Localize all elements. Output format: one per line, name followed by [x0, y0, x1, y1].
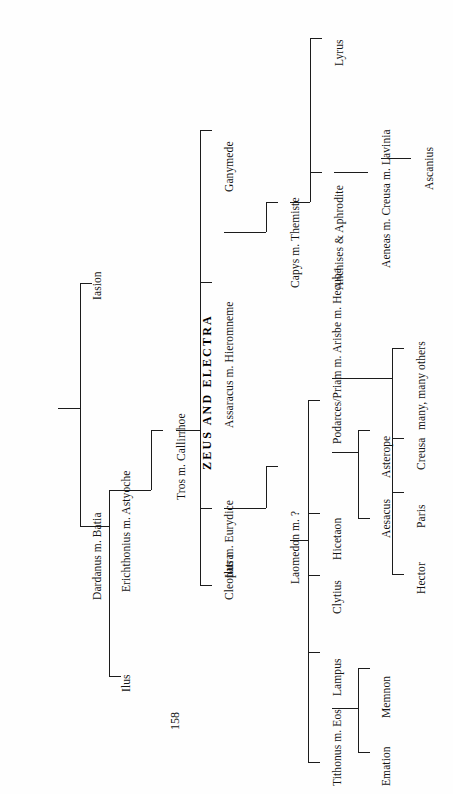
connector-tros-assaracus [200, 282, 212, 283]
connector-priam-arisbe-spine [358, 430, 359, 518]
connector-capys-anchises [310, 172, 322, 173]
node-paris[interactable]: Paris [416, 505, 428, 529]
connector-priam-manyothers [392, 348, 404, 349]
node-podarces-priam[interactable]: Podarces/Priam m. Arisbe m. Hecuba [332, 268, 344, 444]
node-erichthonius[interactable]: Erichthonius m. Astyoche [121, 470, 133, 592]
connector-laomedon-hicetaon [308, 513, 320, 514]
connector-laomedon-spine [308, 400, 309, 762]
connector-tithonus-emation [358, 752, 370, 753]
node-cleopatra[interactable]: Cleopatra [224, 554, 236, 600]
node-tros[interactable]: Tros m. Callirrhoe [176, 413, 188, 500]
node-dardanus[interactable]: Dardanus m. Batia [92, 512, 104, 600]
connector-erichthonius-spine-h [151, 430, 163, 431]
connector-laomedon-lampus [308, 652, 320, 653]
connector-tros-ganymede [200, 130, 212, 131]
node-emation[interactable]: Emation [381, 746, 393, 786]
connector-ilus2-spine [266, 466, 267, 508]
connector-priam-arisbe-stub [332, 452, 358, 453]
connector-dardanus-spine [109, 490, 110, 676]
connector-assaracus-capys [224, 232, 266, 233]
connector-laomedon-tithonus [308, 762, 320, 763]
connector-capys-spine [310, 38, 311, 202]
page-number: 158 [168, 712, 183, 730]
chart-page: ZEUS AND ELECTRA 158 [0, 0, 453, 794]
node-many-others[interactable]: many, many others [416, 341, 428, 430]
connector-capys-lyrus [310, 38, 322, 39]
connector-priam-paris [392, 492, 404, 493]
connector-root-spine [80, 283, 81, 526]
connector-anchises-aeneas [334, 172, 368, 173]
node-capys[interactable]: Capys m. Themiste [290, 197, 302, 288]
node-tithonus[interactable]: Tithonus m. Eos [332, 709, 344, 786]
connector-tros-cleopatra [200, 585, 212, 586]
connector-priam-aesacus [358, 518, 370, 519]
node-creusa[interactable]: Creusa [416, 437, 428, 470]
node-asterope[interactable]: Asterope [381, 436, 393, 478]
node-ganymede[interactable]: Ganymede [224, 141, 236, 192]
node-hector[interactable]: Hector [416, 562, 428, 594]
connector-erichthonius-spine [151, 430, 152, 490]
connector-laomedon-podarces [308, 400, 320, 401]
connector-tithonus-spine [358, 668, 359, 752]
page-title: ZEUS AND ELECTRA [200, 314, 215, 470]
connector-tithonus-memnon [358, 668, 370, 669]
node-laomedon[interactable]: Laomedon m. ? [290, 511, 302, 584]
connector-root-stub [58, 408, 80, 409]
node-hicetaon[interactable]: Hicetaon [332, 518, 344, 560]
connector-assaracus-spine [266, 202, 267, 232]
connector-priam-creusa [392, 438, 404, 439]
connector-assaracus-spine-h [266, 202, 278, 203]
connector-priam-asterope [358, 430, 370, 431]
node-ascanius[interactable]: Ascanius [424, 147, 436, 190]
node-aesacus[interactable]: Aesacus [381, 499, 393, 538]
node-assaracus[interactable]: Assaracus m. Hieromneme [224, 301, 236, 428]
node-aeneas[interactable]: Aeneas m. Creusa m. Lavinia [381, 129, 393, 268]
connector-ilus2-spine-h [266, 466, 278, 467]
node-ilus-1[interactable]: Ilus [121, 674, 133, 692]
node-clytius[interactable]: Clytius [332, 580, 344, 614]
node-lampus[interactable]: Lampus [332, 658, 344, 696]
node-lyrus[interactable]: Lyrus [334, 39, 346, 66]
connector-tros-ilus2 [200, 508, 212, 509]
connector-laomedon-clytius [308, 575, 320, 576]
node-iasion[interactable]: Iasion [92, 271, 104, 300]
connector-priam-hector [392, 574, 404, 575]
node-memnon[interactable]: Memnon [381, 676, 393, 718]
connector-tros-spine [200, 130, 201, 585]
